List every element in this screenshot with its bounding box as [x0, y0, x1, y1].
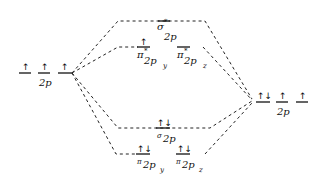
- svg-text:*: *: [144, 47, 148, 55]
- svg-text:2p: 2p: [163, 31, 177, 42]
- mo-diagram: ↑ ↑ ↑ 2p ↑↓ ↑ ↑ 2p σ * 2p ↑ π *: [0, 0, 330, 193]
- sigma-2p-electrons: ↑↓: [157, 118, 172, 128]
- pi-star-left-correlation: [72, 47, 138, 73]
- right-electron-1: ↑↓: [257, 91, 272, 101]
- pi-2py-electrons: ↑↓: [137, 144, 152, 154]
- svg-text:y: y: [162, 62, 168, 70]
- pi-star-2pz: π * 2p z: [176, 47, 207, 70]
- svg-text:z: z: [198, 166, 203, 174]
- svg-text:π: π: [136, 49, 144, 60]
- svg-text:2p: 2p: [143, 55, 157, 66]
- pi-left-correlation: [72, 73, 135, 154]
- pi-star-right-correlation: [203, 47, 252, 100]
- pi-2py: ↑↓ π 2p y: [136, 144, 165, 174]
- svg-text:2p: 2p: [181, 159, 195, 170]
- pi-2pz-electrons: ↑↓: [177, 144, 192, 154]
- svg-text:σ: σ: [157, 132, 162, 140]
- left-electron-1: ↑: [22, 62, 30, 72]
- right-atom-label: 2p: [276, 106, 290, 117]
- svg-text:π: π: [175, 158, 181, 166]
- svg-text:2p: 2p: [183, 55, 197, 66]
- right-electron-3: ↑: [299, 91, 307, 101]
- svg-text:2p: 2p: [162, 133, 176, 144]
- correlation-lines: [72, 21, 252, 154]
- right-electron-2: ↑: [279, 91, 287, 101]
- svg-text:π: π: [176, 49, 184, 60]
- left-electron-3: ↑: [61, 62, 69, 72]
- sigma-star-correlation: [72, 21, 252, 99]
- svg-text:π: π: [136, 158, 142, 166]
- left-atom-orbitals: ↑ ↑ ↑ 2p: [19, 62, 72, 88]
- svg-text:2p: 2p: [142, 159, 156, 170]
- svg-text:*: *: [184, 47, 188, 55]
- left-electron-2: ↑: [41, 62, 49, 72]
- pi-star-2py-electron: ↑: [140, 37, 148, 47]
- svg-text:y: y: [159, 166, 165, 174]
- sigma-star-2p: σ * 2p: [157, 18, 177, 42]
- right-atom-orbitals: ↑↓ ↑ ↑ 2p: [256, 91, 308, 117]
- left-atom-label: 2p: [38, 77, 52, 88]
- pi-right-correlation: [205, 103, 252, 154]
- sigma-2p: ↑↓ σ 2p: [156, 118, 176, 144]
- pi-2pz: ↑↓ π 2p z: [175, 144, 203, 174]
- svg-text:z: z: [202, 62, 207, 70]
- svg-text:*: *: [164, 18, 168, 26]
